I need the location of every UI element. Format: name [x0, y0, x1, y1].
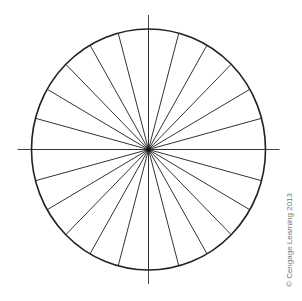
spoke-line [149, 150, 262, 181]
spoke-line [149, 33, 179, 149]
spoke-line [149, 150, 208, 254]
spoke-line [149, 118, 262, 149]
spoke-line [90, 150, 149, 254]
polar-grid-diagram [0, 0, 302, 301]
spoke-line [35, 150, 148, 181]
spoke-line [149, 45, 208, 149]
spoke-line [35, 118, 148, 149]
spoke-line [47, 89, 148, 149]
spoke-line [90, 45, 149, 149]
center-point [146, 147, 150, 151]
spoke-line [47, 150, 148, 210]
spoke-line [149, 150, 232, 235]
spoke-line [66, 150, 149, 235]
spoke-line [66, 64, 149, 149]
copyright-credit: © Cengage Learning 2013 [285, 193, 294, 287]
spoke-line [149, 150, 179, 266]
spoke-line [118, 150, 148, 266]
spoke-line [149, 150, 250, 210]
spoke-line [149, 64, 232, 149]
spoke-line [149, 89, 250, 149]
spoke-line [118, 33, 148, 149]
